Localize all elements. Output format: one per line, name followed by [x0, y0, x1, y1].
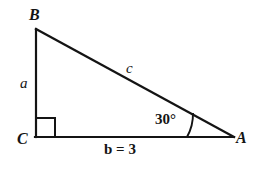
angle-label-30-degrees: 30°	[155, 112, 176, 127]
vertex-label-b: B	[29, 7, 40, 23]
side-label-b: b = 3	[104, 142, 136, 157]
side-c-line	[36, 29, 234, 137]
vertex-label-a: A	[236, 130, 247, 146]
angle-arc-icon	[187, 113, 193, 137]
side-label-a: a	[20, 76, 28, 91]
side-label-c: c	[126, 61, 133, 76]
right-triangle-figure: B C A a c b = 3 30°	[0, 0, 257, 169]
vertex-label-c: C	[17, 131, 28, 147]
right-angle-marker-icon	[36, 118, 55, 137]
